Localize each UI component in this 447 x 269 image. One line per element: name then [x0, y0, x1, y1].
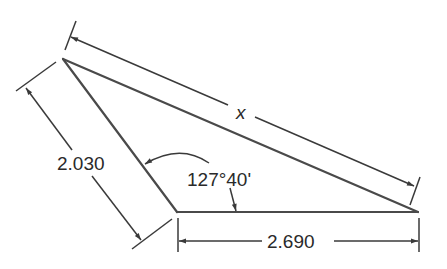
angle-arc [145, 153, 209, 164]
extension-line-left-bottom [132, 219, 172, 249]
label-x: x [235, 102, 247, 123]
label-angle: 127°40' [187, 169, 251, 190]
extension-line-left-top [16, 62, 56, 91]
angle-leader [230, 188, 236, 211]
diagram-svg: x 2.030 2.690 127°40' [0, 0, 447, 269]
label-2030: 2.030 [57, 153, 105, 174]
extension-line-top-right [410, 177, 420, 205]
dimension-arrow-left-down [92, 176, 141, 240]
triangle-side-left [63, 59, 177, 212]
label-2690: 2.690 [267, 231, 315, 252]
dimension-arrow-left-up [26, 88, 72, 150]
triangle-diagram: x 2.030 2.690 127°40' [0, 0, 447, 269]
dimension-arrow-x-left [71, 37, 228, 105]
extension-line-top-left [65, 21, 76, 50]
